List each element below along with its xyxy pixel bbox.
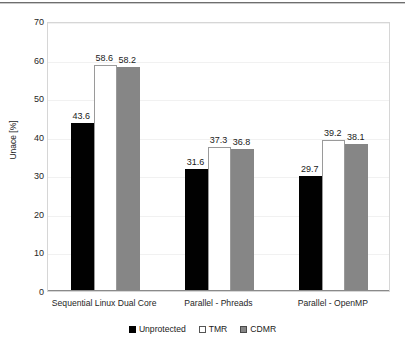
legend-label: Unprotected — [139, 324, 186, 334]
bar — [71, 123, 94, 291]
bar-value-label: 39.2 — [324, 129, 342, 138]
bar — [185, 169, 208, 291]
y-tick-label: 60 — [14, 56, 44, 65]
bar — [231, 149, 254, 291]
legend-item[interactable]: TMR — [199, 324, 228, 334]
bar-value-label: 29.7 — [301, 165, 319, 174]
y-tick-label: 30 — [14, 172, 44, 181]
y-tick-label: 70 — [14, 18, 44, 27]
legend-swatch-icon — [240, 326, 247, 333]
bar-value-label: 31.6 — [187, 158, 205, 167]
category-label: Sequential Linux Dual Core — [44, 298, 164, 309]
y-tick-label: 50 — [14, 95, 44, 104]
bar — [345, 144, 368, 291]
bar-chart-figure: Unace [%] 010203040506070 43.658.658.231… — [0, 0, 405, 350]
bar-value-label: 58.2 — [118, 56, 136, 65]
gridline — [48, 23, 389, 24]
bar — [208, 147, 231, 291]
legend-swatch-icon — [199, 326, 206, 333]
category-label: Parallel - Phreads — [159, 298, 279, 309]
y-tick-label: 10 — [14, 249, 44, 258]
bar-value-label: 43.6 — [72, 112, 90, 121]
bar — [299, 176, 322, 291]
x-axis-baseline — [48, 290, 389, 291]
legend-item[interactable]: Unprotected — [129, 324, 186, 334]
bar-value-label: 37.3 — [210, 136, 228, 145]
y-tick-label: 20 — [14, 210, 44, 219]
bar-value-label: 38.1 — [347, 133, 365, 142]
legend-item[interactable]: CDMR — [240, 324, 276, 334]
legend-swatch-icon — [129, 326, 136, 333]
bar — [94, 65, 117, 291]
bar — [322, 140, 345, 291]
category-label: Parallel - OpenMP — [273, 298, 393, 309]
legend-label: TMR — [209, 324, 228, 334]
bar-value-label: 36.8 — [233, 138, 251, 147]
y-axis-tick-labels: 010203040506070 — [14, 22, 44, 292]
y-tick-label: 40 — [14, 133, 44, 142]
chart-legend: UnprotectedTMRCDMR — [0, 324, 405, 334]
bar — [117, 67, 140, 291]
bar-value-label: 58.6 — [95, 54, 113, 63]
legend-label: CDMR — [250, 324, 276, 334]
page-top-rule-shadow — [0, 3, 405, 4]
y-tick-label: 0 — [14, 288, 44, 297]
